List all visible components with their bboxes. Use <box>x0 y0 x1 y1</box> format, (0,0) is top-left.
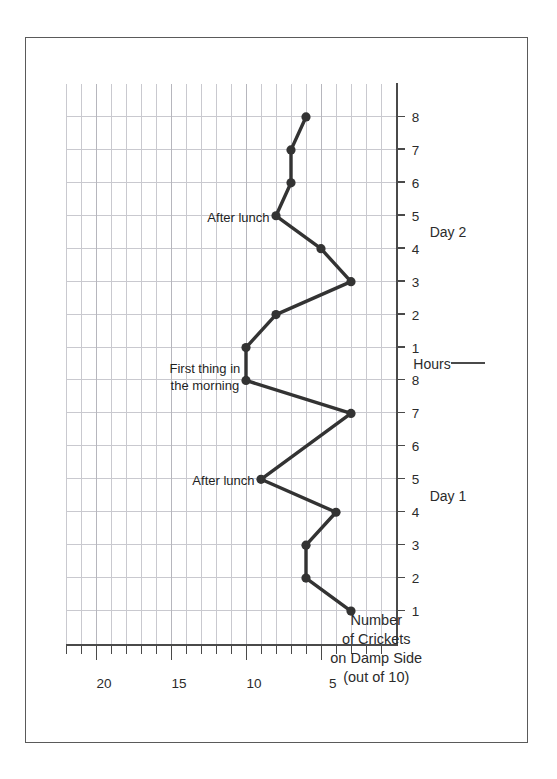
y-tick <box>201 645 202 654</box>
y-tick <box>66 645 67 654</box>
annotation-morning-line-2: the morning <box>152 378 256 395</box>
y-tick <box>231 645 232 654</box>
y-axis-title-line-2: of Crickets <box>281 630 471 649</box>
annotation-first-thing-morning: First thing in the morning <box>152 361 256 395</box>
x-group-label-day1: Day 1 <box>413 488 483 504</box>
y-tick <box>186 645 187 654</box>
y-tick <box>126 645 127 654</box>
y-axis-title-line-1: Number <box>281 611 471 630</box>
data-point-marker <box>301 112 310 121</box>
x-tick-label: 4 <box>400 505 430 520</box>
x-tick-label: 2 <box>400 307 430 322</box>
x-tick-label: 3 <box>400 274 430 289</box>
y-tick <box>96 645 97 660</box>
y-tick <box>246 645 247 660</box>
x-tick-label: 5 <box>400 472 430 487</box>
data-point-marker <box>301 574 310 583</box>
y-tick <box>276 645 277 654</box>
x-group-label-day2: Day 2 <box>413 224 483 240</box>
x-tick-label: 7 <box>400 142 430 157</box>
day-separator-line <box>451 362 485 364</box>
y-tick-label: 10 <box>227 676 261 691</box>
x-tick-label: 8 <box>400 373 430 388</box>
y-tick-label: 15 <box>152 676 186 691</box>
x-tick-label: 6 <box>400 175 430 190</box>
series-polyline <box>246 117 351 611</box>
x-tick-label: 5 <box>400 208 430 223</box>
y-tick-label: 20 <box>77 676 111 691</box>
x-axis-title: Hours <box>397 356 467 372</box>
y-tick <box>111 645 112 654</box>
x-tick-label: 8 <box>400 109 430 124</box>
y-axis-title: Number of Crickets on Damp Side (out of … <box>281 611 471 688</box>
data-point-marker <box>301 541 310 550</box>
line-chart: 1234567812345678 5101520 Day 1 Day 2 Hou… <box>38 46 518 736</box>
y-tick <box>171 645 172 660</box>
chart-rotation-wrapper: 1234567812345678 5101520 Day 1 Day 2 Hou… <box>26 38 529 744</box>
y-axis-title-line-3: on Damp Side <box>281 649 471 668</box>
y-tick <box>216 645 217 654</box>
data-point-marker <box>241 343 250 352</box>
y-tick <box>261 645 262 654</box>
data-point-marker <box>286 178 295 187</box>
y-tick <box>81 645 82 654</box>
y-tick <box>156 645 157 654</box>
data-point-marker <box>286 145 295 154</box>
x-tick-label: 4 <box>400 241 430 256</box>
y-tick <box>141 645 142 654</box>
x-tick-label: 6 <box>400 439 430 454</box>
annotation-after-lunch-day1: After lunch <box>180 473 266 490</box>
x-tick-label: 7 <box>400 406 430 421</box>
x-tick-label: 2 <box>400 571 430 586</box>
annotation-after-lunch-day2: After lunch <box>195 209 281 226</box>
x-tick-label: 3 <box>400 538 430 553</box>
figure-frame: 1234567812345678 5101520 Day 1 Day 2 Hou… <box>25 37 528 743</box>
y-axis-title-line-4: (out of 10) <box>281 668 471 687</box>
x-tick-label: 1 <box>400 340 430 355</box>
annotation-morning-line-1: First thing in <box>152 361 256 378</box>
